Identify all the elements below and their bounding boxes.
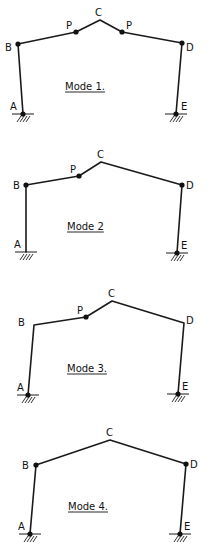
node-label-c: C: [97, 149, 104, 160]
plastic-hinge-icon: [83, 314, 88, 319]
node-label-a: A: [18, 521, 25, 532]
plastic-hinge-icon: [20, 111, 25, 116]
mode-1-frame: ABPCPDEMode 1.: [5, 7, 194, 122]
mode-label: Mode 2: [67, 221, 104, 232]
mode-3-frame: ABPCDEMode 3.: [17, 288, 194, 403]
node-label-d: D: [190, 459, 198, 470]
node-label-c: C: [95, 7, 102, 18]
plastic-hinge-icon: [175, 391, 180, 396]
node-label-c: C: [108, 288, 115, 299]
fixed-support-a: [15, 252, 37, 260]
node-label-p: P: [77, 305, 83, 316]
plastic-hinge-icon: [27, 531, 32, 536]
node-label-p: P: [126, 20, 132, 31]
plastic-hinge-icon: [33, 462, 38, 467]
frame-members: [26, 162, 182, 253]
node-label-e: E: [181, 101, 187, 112]
node-label-b: B: [18, 317, 25, 328]
node-label-a: A: [10, 101, 17, 112]
node-label-d: D: [186, 42, 194, 53]
node-label-p: P: [66, 20, 72, 31]
frame-members: [28, 301, 184, 395]
frame-members: [18, 20, 182, 114]
plastic-hinge-icon: [174, 250, 179, 255]
node-label-p: P: [70, 164, 76, 175]
plastic-hinge-icon: [76, 173, 81, 178]
mode-label: Mode 4.: [68, 501, 108, 512]
frame-members: [30, 440, 186, 534]
node-label-b: B: [13, 180, 20, 191]
plastic-hinge-icon: [179, 182, 184, 187]
plastic-hinge-icon: [119, 29, 124, 34]
plastic-hinge-icon: [15, 41, 20, 46]
node-label-e: E: [181, 240, 187, 251]
plastic-hinge-icon: [179, 40, 184, 45]
mode-2-frame: ABPCDEMode 2: [13, 149, 194, 261]
node-label-a: A: [17, 382, 24, 393]
plastic-hinge-icon: [183, 461, 188, 466]
plastic-hinge-icon: [23, 182, 28, 187]
node-label-b: B: [5, 42, 12, 53]
plastic-hinge-icon: [177, 531, 182, 536]
plastic-hinge-icon: [173, 111, 178, 116]
node-label-e: E: [182, 381, 188, 392]
node-label-a: A: [14, 239, 21, 250]
node-label-c: C: [106, 427, 113, 438]
node-label-e: E: [184, 521, 190, 532]
plastic-hinge-icon: [25, 392, 30, 397]
plastic-hinge-icon: [73, 29, 78, 34]
node-label-b: B: [22, 460, 29, 471]
mode-label: Mode 3.: [67, 363, 107, 374]
mode-label: Mode 1.: [65, 81, 105, 92]
node-label-d: D: [186, 315, 194, 326]
node-label-d: D: [186, 180, 194, 191]
collapse-modes-diagram: ABPCPDEMode 1.ABPCDEMode 2ABPCDEMode 3.A…: [0, 0, 211, 552]
mode-4-frame: ABCDEMode 4.: [18, 427, 198, 542]
